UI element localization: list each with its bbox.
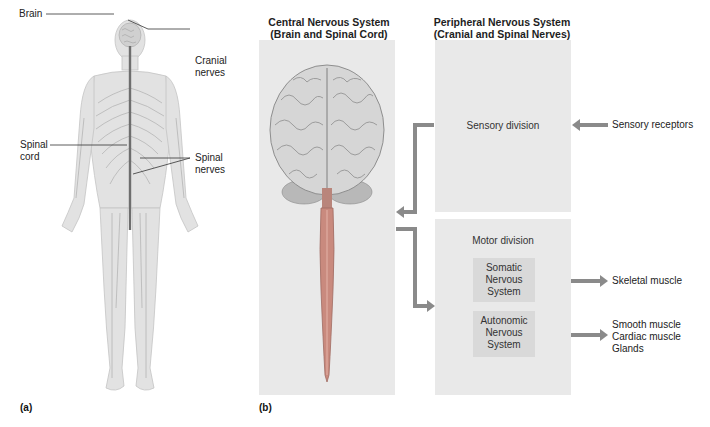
- arrowhead-to-motor-icon: [427, 300, 435, 312]
- arrowhead-to-autonomic-targets-icon: [600, 329, 608, 341]
- label-smooth-muscle: Smooth muscle: [612, 319, 681, 331]
- flow-arrows: [0, 0, 710, 427]
- label-glands: Glands: [612, 343, 644, 355]
- label-skeletal-muscle: Skeletal muscle: [612, 275, 682, 287]
- label-cardiac-muscle: Cardiac muscle: [612, 331, 681, 343]
- arrowhead-to-skeletal-icon: [600, 275, 608, 287]
- label-sensory-receptors: Sensory receptors: [612, 119, 693, 131]
- figure-label-b: (b): [259, 402, 272, 413]
- arrowhead-to-cns-icon: [396, 206, 404, 218]
- arrowhead-to-sensory-icon: [572, 119, 580, 131]
